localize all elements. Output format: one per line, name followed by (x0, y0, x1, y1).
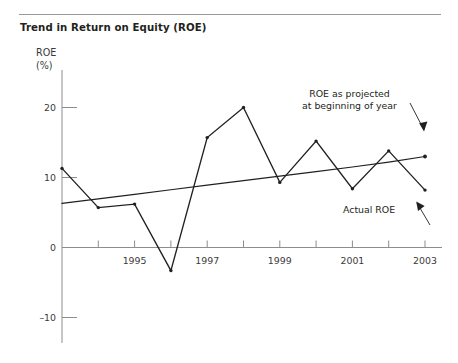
chart-page: Trend in Return on Equity (ROE) ROE (%) … (0, 0, 458, 363)
annotation-arrow-projected (410, 103, 427, 132)
data-point-marker (133, 202, 136, 205)
x-tick-label: 2001 (327, 255, 377, 266)
x-axis-ticks (98, 241, 425, 248)
x-tick-label: 1995 (110, 255, 160, 266)
data-point-marker (60, 167, 63, 170)
annotation-projected-line2: at beginning of year (302, 100, 397, 112)
series-line-projected (62, 157, 425, 204)
y-tick-label: 10 (18, 172, 56, 183)
annotation-projected: ROE as projected at beginning of year (302, 88, 397, 113)
data-point-marker (423, 188, 426, 191)
data-point-marker (351, 187, 354, 190)
data-point-marker (169, 269, 172, 272)
data-point-marker (314, 139, 317, 142)
x-tick-label: 2003 (400, 255, 450, 266)
chart-plot (0, 0, 458, 363)
annotation-actual: Actual ROE (343, 204, 395, 216)
series-projected-endpoint-marker (423, 155, 427, 159)
data-point-marker (97, 206, 100, 209)
x-tick-label: 1997 (182, 255, 232, 266)
data-point-marker (206, 136, 209, 139)
y-axis-ticks (62, 108, 77, 318)
annotation-arrow-actual (416, 202, 430, 225)
data-point-marker (387, 149, 390, 152)
y-tick-label: 20 (18, 102, 56, 113)
data-point-marker (242, 106, 245, 109)
y-tick-label: 0 (18, 242, 56, 253)
x-tick-label: 1999 (255, 255, 305, 266)
data-point-marker (278, 181, 281, 184)
annotation-projected-line1: ROE as projected (302, 88, 397, 100)
y-tick-label: –10 (18, 312, 56, 323)
